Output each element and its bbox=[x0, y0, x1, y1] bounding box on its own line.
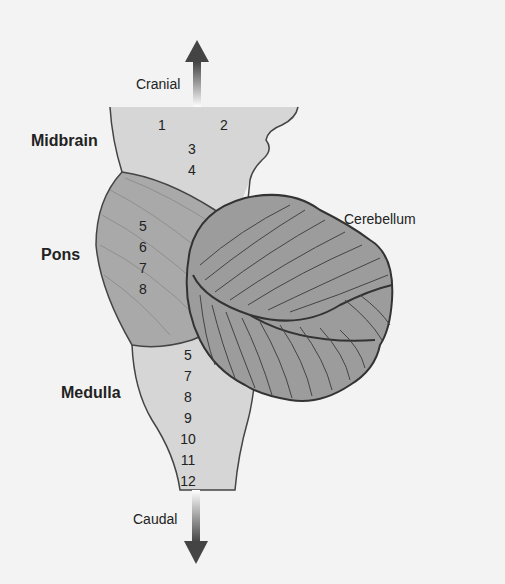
cranial-arrow bbox=[185, 40, 209, 107]
caudal-label: Caudal bbox=[133, 512, 177, 526]
midbrain-label: Midbrain bbox=[31, 133, 98, 149]
cranial-label: Cranial bbox=[136, 77, 180, 91]
cerebellum-label: Cerebellum bbox=[344, 212, 416, 226]
nerve-number: 5 bbox=[131, 219, 155, 233]
nerve-number: 1 bbox=[150, 118, 174, 132]
nerve-number: 3 bbox=[180, 142, 204, 156]
nerve-number: 12 bbox=[176, 474, 200, 488]
nerve-number: 8 bbox=[176, 390, 200, 404]
brainstem-diagram: Cranial Caudal Midbrain Pons Medulla Cer… bbox=[0, 0, 505, 584]
nerve-number: 11 bbox=[176, 453, 200, 467]
brainstem-illustration bbox=[0, 0, 505, 584]
nerve-number: 6 bbox=[131, 240, 155, 254]
pons-label: Pons bbox=[41, 247, 80, 263]
nerve-number: 8 bbox=[131, 282, 155, 296]
caudal-arrow bbox=[184, 490, 208, 564]
medulla-label: Medulla bbox=[61, 385, 121, 401]
nerve-number: 4 bbox=[180, 163, 204, 177]
nerve-number: 2 bbox=[212, 118, 236, 132]
nerve-number: 7 bbox=[176, 369, 200, 383]
nerve-number: 7 bbox=[131, 261, 155, 275]
nerve-number: 5 bbox=[176, 348, 200, 362]
nerve-number: 9 bbox=[176, 411, 200, 425]
nerve-number: 10 bbox=[176, 432, 200, 446]
